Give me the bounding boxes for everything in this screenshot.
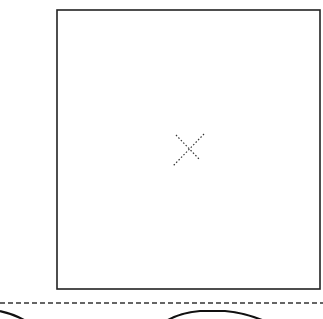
left-arc	[0, 311, 24, 319]
diagram-svg	[0, 0, 323, 319]
center-cross-icon	[173, 134, 204, 166]
diagram-canvas	[0, 0, 323, 319]
right-arc	[168, 311, 262, 319]
